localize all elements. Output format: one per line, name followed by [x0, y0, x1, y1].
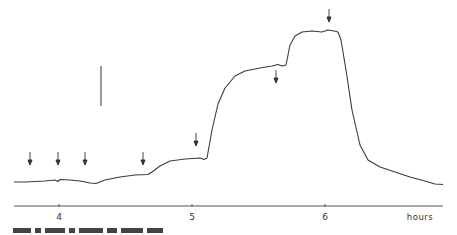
arrow-icon [274, 70, 278, 83]
recorder-trace-line [14, 30, 443, 185]
x-tick-label-4: 4 [56, 212, 62, 222]
x-tick-label-6: 6 [322, 212, 328, 222]
figure-caption-truncated [0, 228, 457, 235]
chart-figure: 4 5 6 hours [0, 0, 457, 235]
x-tick-label-5: 5 [189, 212, 195, 222]
event-arrows [28, 9, 331, 165]
arrow-icon [83, 152, 87, 165]
arrow-icon [141, 152, 145, 165]
arrow-icon [327, 9, 331, 22]
arrow-icon [56, 152, 60, 165]
arrow-icon [194, 133, 198, 146]
arrow-icon [28, 152, 32, 165]
x-axis-label: hours [407, 212, 433, 222]
